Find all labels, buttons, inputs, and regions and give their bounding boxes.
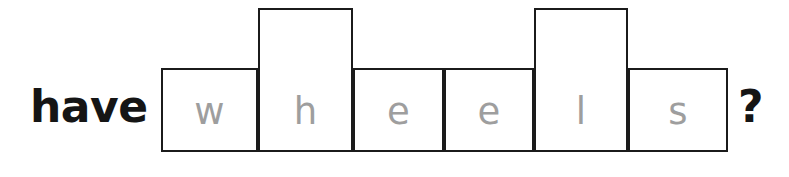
word-shape-strip: wheels — [0, 0, 789, 177]
letter-glyph: e — [446, 92, 532, 132]
letter-glyph: l — [536, 92, 626, 132]
letter-box[interactable]: s — [628, 68, 728, 152]
trailing-question-mark: ? — [738, 82, 764, 132]
letter-glyph: w — [163, 92, 256, 132]
letter-glyph: s — [630, 92, 726, 132]
letter-box[interactable]: e — [353, 68, 444, 152]
letter-box[interactable]: l — [534, 8, 628, 152]
letter-box[interactable]: w — [161, 68, 258, 152]
letter-glyph: e — [355, 92, 442, 132]
word-shape-exercise: have wheels ? — [0, 0, 789, 177]
letter-glyph: h — [260, 92, 351, 132]
letter-box[interactable]: h — [258, 8, 353, 152]
letter-box[interactable]: e — [444, 68, 534, 152]
